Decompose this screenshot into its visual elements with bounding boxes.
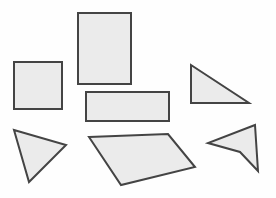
shapes-canvas xyxy=(0,0,276,198)
rectangle-tall-top xyxy=(78,13,131,84)
rectangle-wide-center xyxy=(86,92,169,121)
square-left xyxy=(14,62,62,109)
shapes-svg xyxy=(0,0,276,198)
